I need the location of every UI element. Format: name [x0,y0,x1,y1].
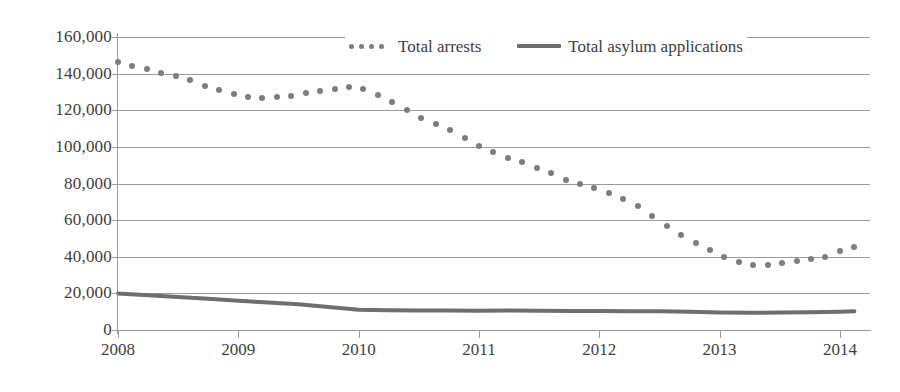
data-point [649,213,655,219]
y-tick-label: 140,000 [4,65,112,82]
x-tick-mark [840,331,841,338]
gridline [118,184,870,185]
legend-item-total-asylum-applications[interactable]: Total asylum applications [517,38,742,55]
data-point [765,262,771,268]
y-tick-label: 100,000 [4,138,112,155]
data-point [303,90,309,96]
chart-container: 160,000140,000120,000100,00080,00060,000… [0,0,900,392]
data-point [462,135,468,141]
data-point [231,91,237,97]
y-tick-mark [112,220,118,221]
x-axis-line [117,330,871,331]
x-tick-label: 2014 [800,340,880,360]
y-tick-label: 40,000 [4,248,112,265]
data-point [115,59,121,65]
data-point [678,232,684,238]
data-point [418,115,424,121]
data-point [288,93,294,99]
y-axis-labels: 160,000140,000120,000100,00080,00060,000… [0,0,112,392]
x-tick-label: 2011 [439,340,519,360]
x-tick-mark [238,331,239,338]
y-tick-mark [112,293,118,294]
x-tick-label: 2012 [559,340,639,360]
gridline [118,293,870,294]
y-tick-mark [112,37,118,38]
data-point [693,240,699,246]
data-point [794,258,800,264]
data-point [144,66,150,72]
data-point [534,165,540,171]
legend-label-total-arrests: Total arrests [398,38,481,55]
data-point [563,177,569,183]
x-tick-label: 2013 [680,340,760,360]
dotted-marker-icon [349,44,391,49]
x-tick-mark [359,331,360,338]
data-point [505,155,511,161]
gridline [118,74,870,75]
gridline [118,220,870,221]
gridline [118,147,870,148]
chart-legend: Total arrests Total asylum applications [345,33,747,59]
x-tick-label: 2010 [319,340,399,360]
y-tick-label: 60,000 [4,211,112,228]
data-point [664,223,670,229]
data-point [332,86,338,92]
y-tick-label: 120,000 [4,101,112,118]
data-point [606,190,612,196]
legend-label-total-asylum-applications: Total asylum applications [568,38,742,55]
x-tick-mark [720,331,721,338]
y-tick-mark [112,110,118,111]
y-tick-label: 80,000 [4,175,112,192]
y-tick-label: 0 [4,321,112,338]
x-tick-mark [599,331,600,338]
y-tick-mark [112,257,118,258]
legend-item-total-arrests[interactable]: Total arrests [349,38,481,55]
x-tick-mark [118,331,119,338]
y-tick-mark [112,147,118,148]
plot-area [118,37,870,330]
x-axis-labels: 2008200920102011201220132014 [0,340,900,380]
solid-line-marker-icon [517,44,561,48]
y-tick-mark [112,74,118,75]
x-tick-label: 2008 [78,340,158,360]
y-tick-label: 160,000 [4,28,112,45]
gridline [118,110,870,111]
data-point [476,143,482,149]
x-tick-label: 2009 [198,340,278,360]
data-point [433,121,439,127]
x-tick-mark [479,331,480,338]
gridline [118,257,870,258]
data-point [375,92,381,98]
y-tick-mark [112,184,118,185]
y-tick-label: 20,000 [4,284,112,301]
data-point [404,107,410,113]
